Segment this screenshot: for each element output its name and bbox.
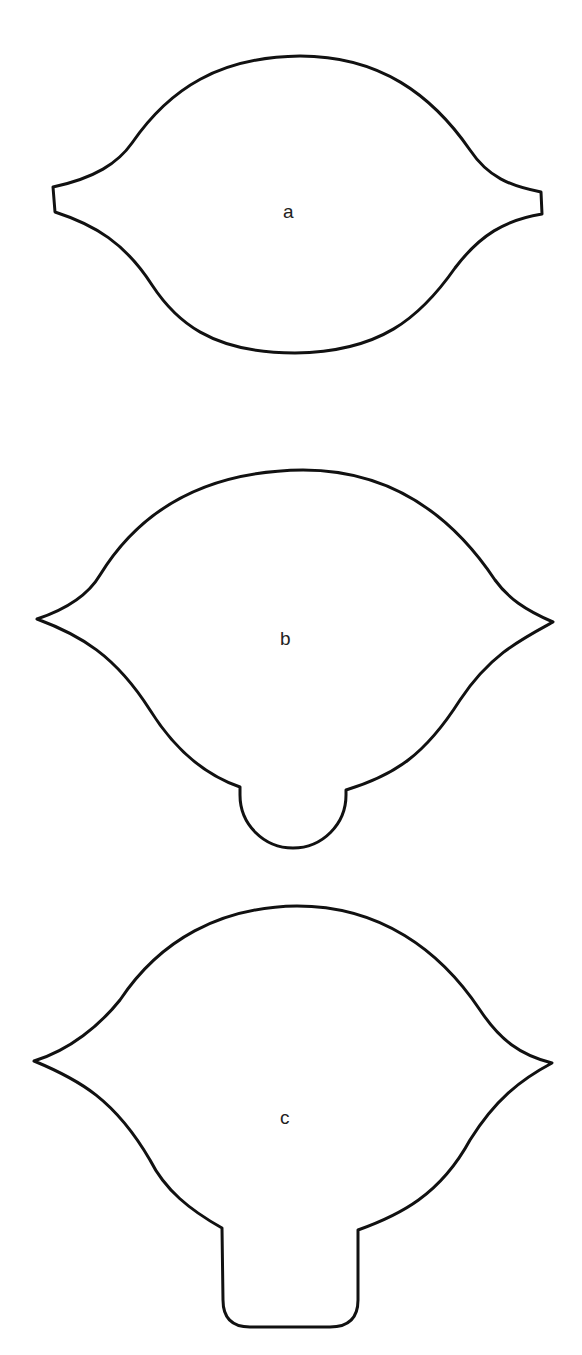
shape-a: a — [53, 56, 542, 353]
shape-a-outline — [53, 56, 542, 353]
shape-b-outline — [37, 470, 553, 848]
shape-a-label: a — [283, 201, 294, 222]
shape-b: b — [37, 470, 553, 848]
shape-c-label: c — [280, 1107, 290, 1128]
shapes-figure: a b c — [0, 0, 582, 1355]
shape-c-outline — [34, 906, 552, 1327]
shape-b-label: b — [280, 628, 291, 649]
shape-c: c — [34, 906, 552, 1327]
